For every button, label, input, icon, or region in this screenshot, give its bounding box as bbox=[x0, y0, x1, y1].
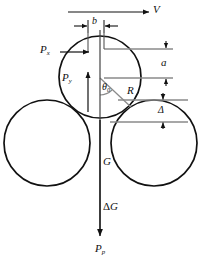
delta-weight-symbol: G bbox=[110, 200, 118, 212]
dimension-delta-label: Δ bbox=[158, 105, 164, 115]
delta-weight-label: ΔG bbox=[103, 201, 118, 212]
force-x-symbol: P bbox=[40, 43, 47, 55]
right-support-circle bbox=[111, 100, 197, 186]
theta-subscript: 0 bbox=[107, 86, 110, 93]
force-x-subscript: x bbox=[47, 49, 50, 56]
velocity-label: V bbox=[153, 4, 160, 15]
dimension-b-label: b bbox=[92, 16, 97, 26]
left-support-circle bbox=[4, 100, 90, 186]
angle-theta-label: θ0 bbox=[102, 82, 110, 92]
diagram-canvas bbox=[0, 0, 198, 262]
dimension-a-label: a bbox=[161, 57, 167, 68]
force-x-label: Px bbox=[40, 44, 50, 55]
force-diagram-figure: V b Px a Py θ0 R Δ G ΔG Pp bbox=[0, 0, 198, 262]
force-y-label: Py bbox=[62, 72, 72, 83]
force-p-symbol: P bbox=[95, 242, 102, 254]
force-p-label: Pp bbox=[95, 243, 105, 254]
force-y-subscript: y bbox=[69, 77, 72, 84]
radius-label: R bbox=[127, 85, 134, 96]
force-y-symbol: P bbox=[62, 71, 69, 83]
force-p-subscript: p bbox=[102, 248, 105, 255]
weight-label: G bbox=[103, 156, 111, 167]
